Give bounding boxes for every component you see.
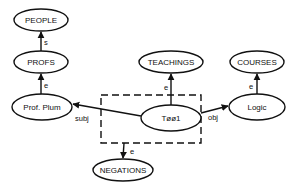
node-label: PEOPLE	[25, 16, 57, 25]
node-label: TEACHINGS	[148, 58, 195, 67]
edge-label-e: e	[164, 83, 168, 92]
edge-label-e: e	[44, 81, 48, 90]
node-t001: Tøø1	[141, 105, 201, 131]
node-label: NEGATIONS	[100, 166, 147, 175]
node-courses: COURSES	[230, 51, 284, 73]
edge-profplum-profs: e	[41, 74, 48, 94]
edge-t001-logic: obj	[201, 106, 228, 122]
edge-label-e: e	[130, 147, 134, 156]
semantic-network-diagram: s e e e subj obj e PEOPLE PROFS Prof. Pl…	[0, 0, 291, 189]
node-people: PEOPLE	[14, 9, 68, 31]
node-label: PROFS	[27, 58, 55, 67]
edge-logic-courses: e	[249, 74, 257, 94]
node-label: Tøø1	[161, 114, 181, 123]
node-label: Logic	[247, 103, 266, 112]
node-logic: Logic	[229, 94, 285, 120]
edge-t001-profplum: subj	[73, 104, 141, 123]
edge-profs-people: s	[41, 32, 48, 51]
node-prof-plum: Prof. Plum	[12, 94, 72, 120]
edge-label-obj: obj	[208, 113, 218, 122]
node-profs: PROFS	[14, 51, 68, 73]
edge-t001-teachings: e	[164, 74, 171, 105]
node-teachings: TEACHINGS	[139, 51, 203, 73]
edge-label-subj: subj	[75, 114, 89, 123]
edge-box-negations: e	[123, 143, 134, 158]
edge-label-e: e	[249, 82, 253, 91]
node-label: COURSES	[237, 58, 277, 67]
edge-label-s: s	[44, 38, 48, 47]
node-negations: NEGATIONS	[93, 159, 153, 181]
node-label: Prof. Plum	[23, 103, 61, 112]
